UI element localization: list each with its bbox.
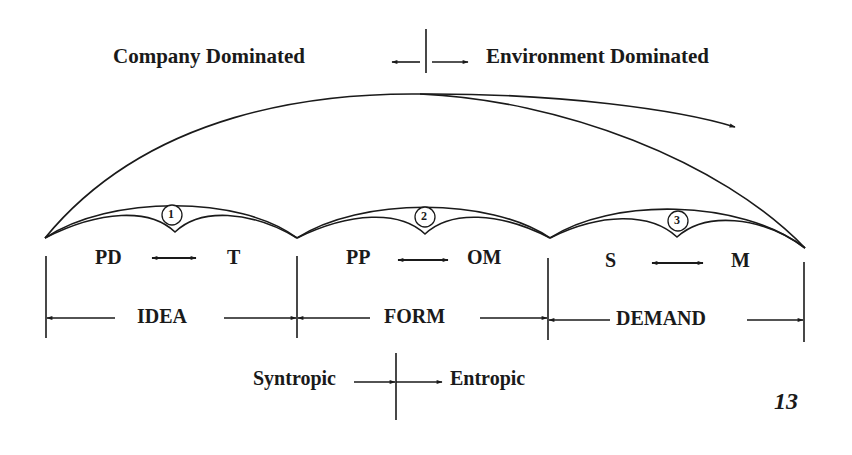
page-number: 13 — [774, 388, 798, 415]
t-label: T — [227, 246, 240, 269]
stage-3-number: 3 — [674, 213, 680, 228]
big-arc-arrow — [45, 94, 735, 238]
stage-1-number: 1 — [168, 207, 174, 222]
phase-demand-label: DEMAND — [616, 307, 706, 330]
m-label: M — [731, 249, 750, 272]
stage-2-number: 2 — [421, 209, 427, 224]
big-arc-return — [420, 94, 805, 248]
environment-dominated-label: Environment Dominated — [486, 44, 709, 69]
pp-label: PP — [346, 246, 370, 269]
syntropic-label: Syntropic — [253, 367, 336, 390]
pd-label: PD — [95, 246, 122, 269]
phase-form-label: FORM — [384, 305, 445, 328]
bottom-axis — [354, 353, 442, 420]
phase-idea-label: IDEA — [137, 305, 187, 328]
diagram-page: Company Dominated Environment Dominated … — [0, 0, 852, 455]
top-axis — [392, 29, 468, 73]
company-dominated-label: Company Dominated — [113, 44, 305, 69]
entropic-label: Entropic — [450, 367, 525, 390]
s-label: S — [605, 249, 616, 272]
om-label: OM — [467, 246, 501, 269]
